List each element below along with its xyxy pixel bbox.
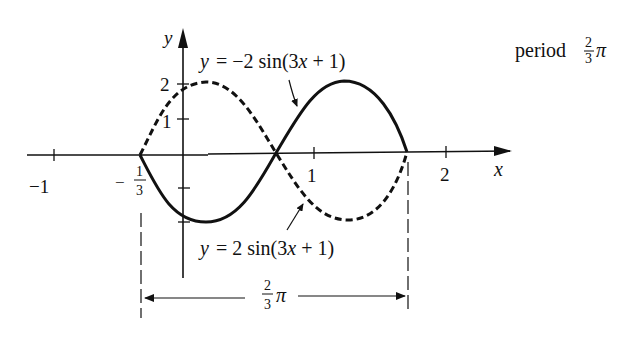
sine-graph-figure: y x −1 1 2 1 2 − 1 3 y = −2 sin(3x + 1) …: [0, 0, 636, 343]
y-tick-label-2: 2: [160, 74, 170, 95]
curve-neg2sin-dashed: [140, 82, 407, 220]
x-tick-label-minus-one-third: − 1 3: [115, 164, 146, 198]
pointer-arrow-top: [289, 80, 297, 106]
fraction-denominator: 3: [136, 183, 143, 198]
label-neg2sin-y: y: [198, 50, 209, 73]
dimension-label: 2 3 π: [262, 278, 287, 312]
y-axis-label: y: [162, 27, 173, 48]
pointer-arrow-bottom: [287, 204, 303, 230]
period-label: period 2 3 π: [515, 35, 607, 66]
label-2sin: y = 2 sin(3x + 1): [198, 237, 334, 260]
x-axis-label: x: [493, 158, 503, 180]
x-tick-label-minus1: −1: [29, 176, 49, 197]
label-2sin-eq: = 2 sin(3x + 1): [216, 237, 334, 260]
dimension-denominator: 3: [264, 297, 271, 312]
period-denominator: 3: [585, 51, 592, 66]
label-neg2sin-eq: = −2 sin(3x + 1): [216, 50, 345, 73]
dimension-numerator: 2: [264, 278, 271, 293]
x-tick-label-1: 1: [307, 165, 317, 186]
minus-sign: −: [115, 173, 125, 192]
fraction-numerator: 1: [136, 164, 143, 179]
label-2sin-y: y: [198, 237, 209, 260]
dimension-pi: π: [276, 284, 287, 306]
x-axis-arrow-icon: [494, 146, 512, 156]
y-tick-label-1: 1: [162, 111, 172, 132]
x-tick-label-2: 2: [440, 164, 450, 185]
period-pi: π: [596, 39, 607, 61]
label-neg2sin: y = −2 sin(3x + 1): [198, 50, 345, 73]
y-axis-arrow-icon: [178, 28, 188, 48]
period-text: period: [515, 39, 566, 62]
period-numerator: 2: [585, 35, 592, 50]
x-axis-right: [208, 151, 510, 154]
